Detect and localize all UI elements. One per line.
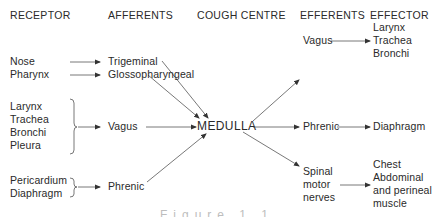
arrow-glossopharyngeal-medulla (148, 75, 199, 118)
receptor-pericardium: Pericardium (10, 174, 67, 187)
afferent-vagus: Vagus (108, 120, 138, 133)
efferent-nerves: nerves (303, 191, 335, 204)
header-efferents: EFFERENTS (300, 9, 365, 22)
afferent-phrenic: Phrenic (108, 180, 144, 193)
receptor-pleura: Pleura (10, 139, 41, 152)
afferent-glossopharyngeal: Glossopharyngeal (108, 68, 194, 81)
arrow-medulla-vagus (253, 80, 299, 121)
efferent-motor: motor (303, 178, 330, 191)
receptor-bronchi: Bronchi (10, 126, 46, 139)
receptor-larynx: Larynx (10, 100, 42, 113)
effector-bronchi: Bronchi (373, 47, 409, 60)
effector-larynx: Larynx (373, 21, 405, 34)
effector-diaphragm: Diaphragm (373, 120, 425, 133)
effector-chest: Chest (373, 158, 401, 171)
afferent-trigeminal: Trigeminal (108, 55, 158, 68)
arrow-medulla-spinal (243, 132, 299, 166)
receptor-trachea: Trachea (10, 113, 49, 126)
bracket-group2 (70, 99, 77, 154)
effector-abdominal: Abdominal (373, 171, 424, 184)
arrow-phrenic-medulla (147, 134, 206, 182)
bracket-group3 (70, 178, 77, 197)
cough-centre-medulla: MEDULLA (197, 120, 256, 133)
effector-perineal: and perineal (373, 184, 432, 197)
efferent-spinal: Spinal (303, 165, 333, 178)
header-receptor: RECEPTOR (10, 9, 71, 22)
efferent-vagus: Vagus (303, 34, 333, 47)
receptor-nose: Nose (10, 55, 35, 68)
efferent-phrenic: Phrenic (303, 120, 339, 133)
receptor-pharynx: Pharynx (10, 68, 49, 81)
header-afferents: AFFERENTS (108, 9, 173, 22)
receptor-diaphragm: Diaphragm (10, 187, 62, 200)
figure-caption: Figure 1.1 Cough reflex (160, 209, 300, 217)
header-cough-centre: COUGH CENTRE (197, 9, 286, 22)
effector-muscle: muscle (373, 197, 407, 210)
effector-trachea: Trachea (373, 34, 412, 47)
